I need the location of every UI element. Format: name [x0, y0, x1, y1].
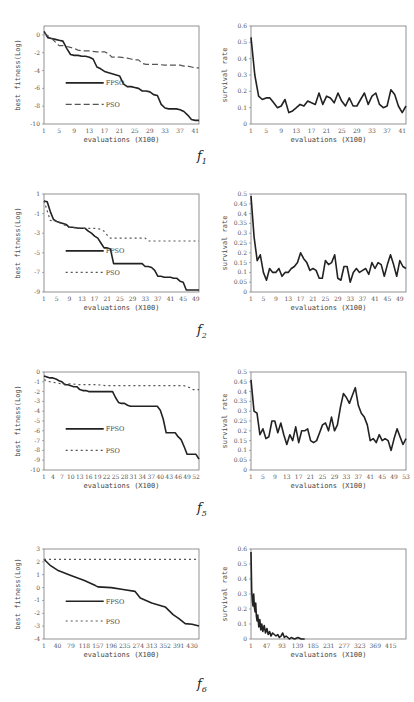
x-tick-label: 231: [323, 642, 334, 649]
x-tick-label: 21: [116, 127, 124, 134]
y-tick-label: 0.25: [234, 239, 248, 246]
x-tick-label: 40: [156, 473, 164, 480]
x-axis-label: evaluations (X100): [84, 136, 160, 144]
x-tick-label: 49: [396, 295, 404, 302]
y-tick-label: 0.5: [237, 368, 247, 375]
x-tick-label: 29: [146, 127, 154, 134]
x-tick-label: 17: [308, 127, 316, 134]
y-tick-label: -3: [34, 622, 40, 629]
y-tick-label: -8: [34, 102, 40, 109]
x-tick-label: 16: [85, 473, 93, 480]
y-tick-label: 0.3: [237, 229, 247, 236]
x-tick-label: 1: [249, 642, 253, 649]
y-tick-label: -9: [34, 288, 40, 295]
caption-f1: f1: [197, 148, 207, 166]
legend-label-pso: PSO: [106, 101, 120, 109]
x-tick-label: 45: [384, 295, 392, 302]
x-tick-label: 13: [284, 295, 292, 302]
f2-survival-svg: 00.050.10.150.20.250.30.350.40.450.51591…: [207, 190, 414, 318]
y-tick-label: 0.5: [237, 38, 247, 45]
y-tick-label: -3: [34, 229, 40, 236]
x-tick-label: 13: [86, 127, 94, 134]
x-tick-label: 29: [331, 473, 339, 480]
y-tick-label: 0.4: [237, 575, 247, 582]
y-tick-label: -4: [34, 407, 40, 414]
plot-area: [44, 194, 199, 292]
y-tick-label: -7: [34, 437, 40, 444]
x-tick-label: 33: [343, 473, 351, 480]
x-tick-label: 13: [283, 473, 291, 480]
x-tick-label: 1: [249, 127, 253, 134]
y-tick-label: -1: [34, 378, 40, 385]
x-tick-label: 5: [57, 127, 61, 134]
x-tick-label: 41: [191, 127, 199, 134]
y-axis-label: best fitness(Log): [14, 39, 22, 111]
chart-f5-survival: 00.050.10.150.20.250.30.350.40.450.51591…: [207, 368, 414, 496]
y-tick-label: -10: [30, 120, 40, 127]
y-axis-label: survival rate: [221, 394, 229, 449]
x-tick-label: 22: [103, 473, 111, 480]
x-tick-label: 31: [130, 473, 138, 480]
x-tick-label: 93: [278, 642, 286, 649]
chart-f6-survival: 00.10.20.30.40.50.6147931391852312773233…: [207, 545, 414, 665]
x-axis-label: evaluations (X100): [291, 482, 367, 490]
y-tick-label: 0.2: [237, 427, 247, 434]
x-tick-label: 185: [307, 642, 319, 649]
x-tick-label: 25: [131, 127, 139, 134]
y-tick-label: 0.25: [234, 417, 248, 424]
x-tick-label: 5: [261, 473, 265, 480]
x-tick-label: 9: [72, 127, 76, 134]
x-tick-label: 49: [390, 473, 398, 480]
y-tick-label: 0.1: [237, 104, 247, 111]
x-tick-label: 277: [338, 642, 350, 649]
x-tick-label: 46: [174, 473, 182, 480]
x-tick-label: 5: [55, 295, 59, 302]
x-tick-label: 7: [60, 473, 64, 480]
plot-area: [251, 26, 406, 124]
caption-f5: f5: [197, 500, 207, 518]
y-tick-label: 0: [36, 584, 40, 591]
x-tick-label: 41: [167, 295, 175, 302]
x-tick-label: 17: [297, 295, 305, 302]
x-tick-label: 9: [274, 295, 278, 302]
y-tick-label: -10: [30, 466, 40, 473]
y-tick-label: -2: [34, 388, 40, 395]
y-tick-label: 0: [243, 120, 247, 127]
y-tick-label: -8: [34, 446, 40, 453]
x-tick-label: 1: [249, 473, 253, 480]
y-tick-label: 0.3: [237, 71, 247, 78]
f2-fitness-svg: 1-1-3-5-7-915913172125293337414549evalua…: [0, 190, 207, 318]
x-tick-label: 37: [176, 127, 184, 134]
y-tick-label: 0.2: [237, 249, 247, 256]
x-tick-label: 29: [353, 127, 361, 134]
x-axis-label: evaluations (X100): [291, 651, 367, 659]
y-tick-label: 0.45: [234, 378, 248, 385]
x-tick-label: 5: [264, 127, 268, 134]
x-tick-label: 29: [129, 295, 137, 302]
y-tick-label: 0.3: [237, 590, 247, 597]
x-tick-label: 19: [94, 473, 102, 480]
x-tick-label: 37: [154, 295, 162, 302]
legend-label-fpso: FPSO: [106, 598, 125, 606]
x-tick-label: 1: [42, 295, 46, 302]
plot-area: [44, 549, 199, 639]
f5-fitness-svg: 0-1-2-3-4-5-6-7-8-9-10147101316192225283…: [0, 368, 207, 496]
y-tick-label: -6: [34, 84, 40, 91]
y-tick-label: 0.5: [237, 190, 247, 197]
y-tick-label: 0.1: [237, 446, 247, 453]
y-tick-label: 0.05: [234, 278, 248, 285]
x-tick-label: 25: [116, 295, 124, 302]
x-tick-label: 33: [346, 295, 354, 302]
y-tick-label: 1: [36, 571, 40, 578]
caption-f6: f6: [197, 676, 207, 694]
y-tick-label: 0.1: [237, 268, 247, 275]
x-tick-label: 313: [146, 642, 158, 649]
y-tick-label: -7: [34, 268, 40, 275]
x-tick-label: 1: [42, 473, 46, 480]
x-axis-label: evaluations (X100): [84, 651, 160, 659]
x-tick-label: 21: [103, 295, 111, 302]
x-tick-label: 9: [273, 473, 277, 480]
x-tick-label: 235: [119, 642, 131, 649]
caption-f2: f2: [197, 322, 207, 340]
y-tick-label: 0.1: [237, 620, 247, 627]
